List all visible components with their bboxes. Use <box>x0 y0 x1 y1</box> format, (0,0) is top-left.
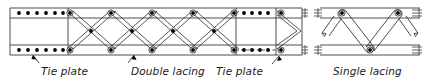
leader-lines <box>33 55 279 64</box>
label-tie-plate-right: Tie plate <box>216 65 263 77</box>
tie-plate-right-graphic <box>236 8 302 55</box>
engineering-figure: Tie plate Double lacing Tie plate Single… <box>0 0 427 83</box>
tie-plate-right-rivets <box>242 11 270 52</box>
left-member-break-marks <box>302 8 308 55</box>
label-single-lacing: Single lacing <box>333 65 402 77</box>
leader-arrowheads <box>31 55 282 61</box>
label-double-lacing: Double lacing <box>131 65 205 77</box>
single-lacing-bars <box>322 9 418 52</box>
tie-plate-left-rivets <box>17 11 65 52</box>
double-lacing-center-rivets <box>89 29 216 33</box>
label-tie-plate-left: Tie plate <box>41 65 88 77</box>
single-lacing-nodes <box>339 10 401 53</box>
end-bay-lacing <box>277 11 301 49</box>
